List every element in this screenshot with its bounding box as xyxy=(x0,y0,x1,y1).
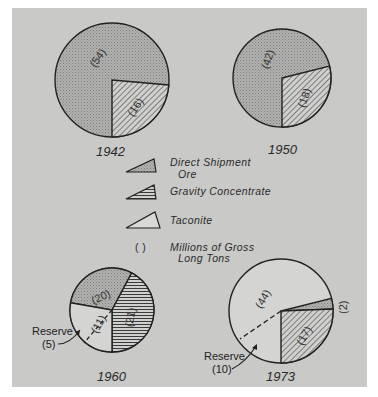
reserve-label-1960: Reserve xyxy=(32,325,73,337)
pie-1973: (44) (17) (2) Reserve (10) 1973 xyxy=(204,259,349,384)
reserve-value-1973: (10) xyxy=(212,363,232,375)
legend-item-gravity: Gravity Concentrate xyxy=(126,185,271,199)
pie-1942: (54) (16) 1942 xyxy=(55,23,169,159)
value-label-1973-direct: (2) xyxy=(337,301,349,314)
legend-label-units-2: Long Tons xyxy=(178,252,231,264)
legend-swatch-gravity xyxy=(126,185,156,199)
legend-label-taconite: Taconite xyxy=(170,214,213,226)
legend-label-direct-2: Ore xyxy=(178,168,197,180)
legend-units-symbol: ( ) xyxy=(135,241,146,253)
pie-1950: (42) (18) 1950 xyxy=(233,29,331,157)
year-label-1950: 1950 xyxy=(268,142,298,157)
legend-item-units: ( ) Millions of Gross Long Tons xyxy=(135,241,255,264)
legend-swatch-taconite xyxy=(126,212,160,228)
reserve-label-1973: Reserve xyxy=(204,350,245,362)
legend-label-direct-1: Direct Shipment xyxy=(170,156,251,168)
year-label-1973: 1973 xyxy=(266,369,296,384)
legend-label-gravity: Gravity Concentrate xyxy=(170,185,271,197)
pie-charts-figure: (54) (16) 1942 (42) (18) 1950 Direct Shi… xyxy=(0,0,378,397)
year-label-1942: 1942 xyxy=(96,144,126,159)
legend-item-taconite: Taconite xyxy=(126,212,213,228)
year-label-1960: 1960 xyxy=(97,369,127,384)
pie-1960: (20) (21) (11) Reserve (5) 1960 xyxy=(32,268,154,384)
reserve-value-1960: (5) xyxy=(42,338,55,350)
legend: Direct Shipment Ore Gravity Concentrate … xyxy=(126,156,271,264)
legend-item-direct-shipment: Direct Shipment Ore xyxy=(126,156,251,180)
legend-swatch-direct xyxy=(126,159,156,172)
